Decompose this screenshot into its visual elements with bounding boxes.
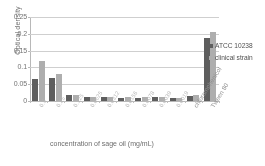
x-axis-tick-mark <box>185 101 186 103</box>
bar-group <box>187 17 200 101</box>
bar-group <box>32 17 45 101</box>
bar <box>32 79 38 101</box>
x-axis-tick-mark <box>30 101 31 103</box>
bar-group <box>84 17 97 101</box>
bar-group <box>66 17 79 101</box>
x-axis-tick-mark <box>82 101 83 103</box>
legend-label: ATCC 10238 <box>215 42 253 49</box>
plot-area <box>30 17 219 101</box>
y-axis-tick-label: 0.05 <box>0 80 27 87</box>
x-axis-title: concentration of sage oil (mg/mL) <box>32 140 172 147</box>
y-axis-tick-label: 0.2 <box>0 30 27 37</box>
y-axis-tick-label: 0 <box>0 97 27 104</box>
bar <box>152 97 158 101</box>
legend-swatch <box>209 56 213 60</box>
x-axis-tick-mark <box>150 101 151 103</box>
y-axis-tick-label: 0.15 <box>0 47 27 54</box>
chart-legend: ATCC 10238clinical strain <box>209 42 253 66</box>
bar-group <box>101 17 114 101</box>
bar <box>84 97 90 101</box>
y-axis-tick-label: 0.1 <box>0 63 27 70</box>
x-axis-tick-mark <box>64 101 65 103</box>
bar-group <box>152 17 165 101</box>
bar <box>66 95 72 101</box>
x-axis-tick-mark <box>167 101 168 103</box>
legend-swatch <box>209 44 213 48</box>
bar-group <box>49 17 62 101</box>
y-axis-tick-label: 0.25 <box>0 13 27 20</box>
bar <box>170 98 176 101</box>
legend-label: clinical strain <box>215 54 253 61</box>
bar-group <box>135 17 148 101</box>
bar-group <box>118 17 131 101</box>
chart-figure: Optical density 00.050.10.150.20.25 0.50… <box>0 0 265 166</box>
bar <box>101 97 107 101</box>
bar <box>187 96 193 101</box>
bar-group <box>170 17 183 101</box>
x-axis-tick-mark <box>99 101 100 103</box>
legend-item: ATCC 10238 <box>209 42 253 49</box>
legend-item: clinical strain <box>209 54 253 61</box>
bar <box>39 61 45 101</box>
x-axis-tick-mark <box>116 101 117 103</box>
bar <box>135 98 141 101</box>
bar <box>118 98 124 101</box>
bar <box>49 78 55 101</box>
